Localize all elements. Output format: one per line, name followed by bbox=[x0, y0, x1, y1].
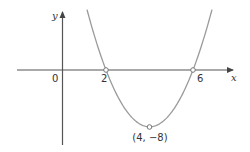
origin-label: 0 bbox=[52, 73, 58, 84]
root-marker-right bbox=[191, 68, 196, 73]
root-label-right: 6 bbox=[197, 73, 203, 84]
vertex-label: (4, −8) bbox=[132, 132, 167, 143]
root-marker-left bbox=[104, 68, 109, 73]
vertex-marker bbox=[147, 125, 152, 130]
parabola-diagram: y x 0 2 6 (4, −8) bbox=[0, 0, 250, 152]
x-axis-label: x bbox=[231, 72, 237, 83]
y-axis-label: y bbox=[51, 10, 58, 21]
graph-canvas: y x 0 2 6 (4, −8) bbox=[0, 0, 250, 152]
root-label-left: 2 bbox=[101, 73, 107, 84]
